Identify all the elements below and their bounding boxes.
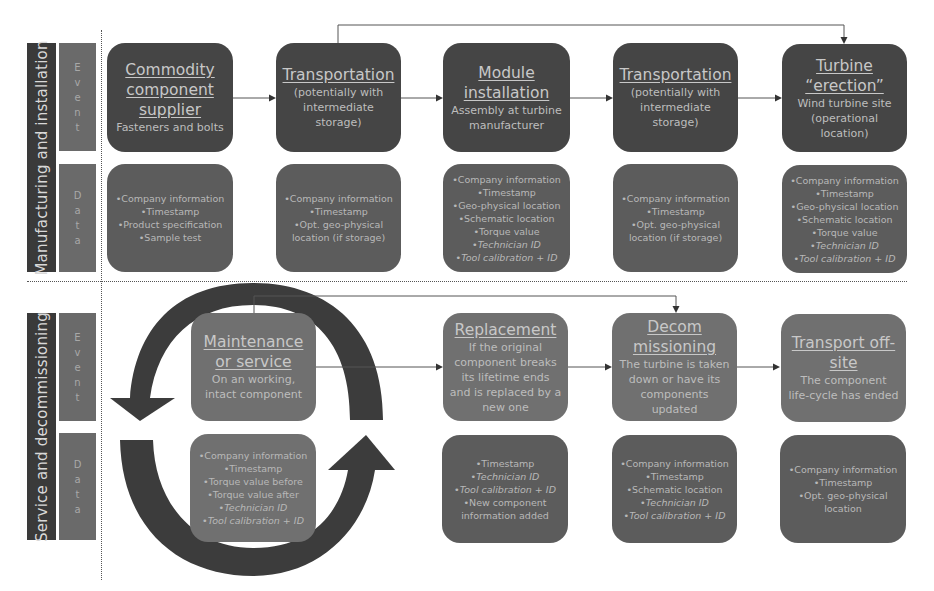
data-item: •Geo-physical location [791, 200, 899, 213]
letter: a [74, 472, 80, 487]
data-item: information added [461, 509, 549, 522]
event-box-commodity-supplier[interactable]: Commodity component supplier Fasteners a… [107, 43, 233, 152]
data-item: •Company information [452, 173, 561, 186]
data-item: •Company information [621, 192, 730, 205]
data-item: •Timestamp [141, 205, 200, 218]
stage-description: storage) [315, 115, 361, 130]
data-item: •Timestamp [645, 470, 704, 483]
data-item: •Company information [620, 457, 729, 470]
data-box-module-installation[interactable]: •Company information •Timestamp •Geo-phy… [443, 164, 570, 272]
stage-description: storage) [652, 115, 698, 130]
stage-title: Commodity [125, 60, 214, 80]
stage-description: (operational [811, 111, 878, 126]
data-item: •Timestamp [309, 205, 368, 218]
data-item: •Opt. geo-physical [631, 218, 720, 231]
row-label-data-service: D a t a [59, 433, 96, 540]
stage-title: “erection” [805, 76, 884, 96]
stage-title: Replacement [455, 320, 557, 340]
data-item: •Timestamp [224, 462, 283, 475]
data-item: •Schematic location [626, 483, 722, 496]
data-item: •New component [463, 496, 546, 509]
data-item: •Opt. geo-physical [798, 489, 887, 502]
data-box-decommissioning[interactable]: •Company information •Timestamp •Schemat… [612, 435, 737, 543]
event-box-transportation-1[interactable]: Transportation (potentially with interme… [276, 43, 401, 152]
data-item: •Torque value after [207, 488, 299, 501]
stage-description: intact component [205, 387, 302, 402]
data-item: •Timestamp [477, 186, 536, 199]
data-item: location [824, 502, 862, 515]
data-item: •Opt. geo-physical [294, 218, 383, 231]
event-box-module-installation[interactable]: Module installation Assembly at turbine … [443, 43, 570, 152]
data-item: •Tool calibration + ID [794, 252, 896, 265]
data-box-transportation-1[interactable]: •Company information •Timestamp •Opt. ge… [276, 164, 401, 272]
stage-description: its lifetime ends [461, 370, 549, 385]
stage-title: supplier [139, 100, 201, 120]
stage-description: and is replaced by a [450, 385, 561, 400]
letter: t [76, 487, 80, 502]
data-item: •Company information [199, 449, 308, 462]
stage-title: component [126, 80, 214, 100]
stage-title: Transportation [620, 65, 732, 85]
stage-description: new one [482, 400, 529, 415]
data-item: •Tool calibration + ID [456, 251, 558, 264]
data-item: •Technician ID [810, 239, 879, 252]
data-item: •Company information [116, 192, 225, 205]
stage-title: missioning [633, 337, 716, 357]
data-item: location (if storage) [292, 231, 385, 244]
stage-description: The turbine is taken [619, 357, 729, 372]
data-item: •Timestamp [476, 457, 535, 470]
data-item: •Company information [790, 174, 899, 187]
event-box-transportation-2[interactable]: Transportation (potentially with interme… [613, 43, 738, 152]
data-item: •Company information [284, 192, 393, 205]
stage-description: component breaks [454, 355, 557, 370]
data-item: •Torque value [811, 226, 877, 239]
stage-description: intermediate [640, 100, 711, 115]
data-item: •Sample test [139, 231, 202, 244]
stage-description: Assembly at turbine [451, 103, 562, 118]
letter: a [74, 502, 80, 517]
data-item: •Torque value [473, 225, 539, 238]
event-box-maintenance[interactable]: Maintenance or service On an working, in… [191, 313, 316, 421]
stage-title: Transport off- [792, 333, 895, 353]
stage-title: site [830, 353, 858, 373]
stage-description: (potentially with [294, 85, 384, 100]
stage-description: Wind turbine site [797, 96, 891, 111]
stage-description: The component [800, 373, 886, 388]
data-item: •Geo-physical location [453, 199, 561, 212]
stage-description: location) [821, 126, 869, 141]
event-box-turbine-erection[interactable]: Turbine “erection” Wind turbine site (op… [782, 44, 907, 152]
stage-description: manufacturer [469, 118, 544, 133]
data-item: location (if storage) [629, 231, 722, 244]
stage-title: Decom [647, 317, 702, 337]
stage-title: Transportation [283, 65, 395, 85]
data-item: •Timestamp [646, 205, 705, 218]
stage-title: installation [464, 83, 550, 103]
data-box-commodity-supplier[interactable]: •Company information •Timestamp •Product… [107, 164, 233, 272]
stage-title: Maintenance [204, 332, 304, 352]
data-box-transportation-2[interactable]: •Company information •Timestamp •Opt. ge… [613, 164, 738, 272]
data-item: •Technician ID [472, 238, 541, 251]
data-item: •Product specification [118, 218, 223, 231]
stage-title: Turbine [816, 56, 873, 76]
stage-title: Module [478, 63, 534, 83]
data-item: •Timestamp [814, 476, 873, 489]
stage-description: (potentially with [631, 85, 721, 100]
stage-title: or service [215, 352, 291, 372]
event-box-transport-off-site[interactable]: Transport off- site The component life-c… [781, 314, 906, 422]
event-box-replacement[interactable]: Replacement If the original component br… [443, 313, 568, 421]
stage-description: intermediate [303, 100, 374, 115]
data-item: •Technician ID [640, 496, 709, 509]
data-box-replacement[interactable]: •Timestamp •Technician ID •Tool calibrat… [442, 435, 568, 543]
event-box-decommissioning[interactable]: Decom missioning The turbine is taken do… [612, 313, 737, 421]
stage-description: On an working, [212, 372, 295, 387]
data-box-turbine-erection[interactable]: •Company information •Timestamp •Geo-phy… [782, 165, 907, 273]
data-item: •Schematic location [458, 212, 554, 225]
data-item: •Torque value before [203, 475, 303, 488]
stage-description: updated [652, 402, 698, 417]
stage-description: life-cycle has ended [788, 388, 898, 403]
data-box-maintenance[interactable]: •Company information •Timestamp •Torque … [190, 434, 316, 542]
data-item: •Tool calibration + ID [624, 509, 726, 522]
data-item: •Technician ID [219, 501, 288, 514]
data-box-transport-off-site[interactable]: •Company information •Timestamp •Opt. ge… [780, 435, 906, 543]
data-item: •Tool calibration + ID [202, 514, 304, 527]
